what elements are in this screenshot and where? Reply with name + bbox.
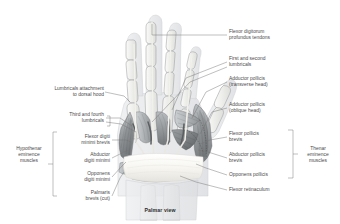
label-opponens-pollicis: Opponens pollicis <box>229 172 304 178</box>
label-opponens-digiti-minimi: Opponens digiti minimi <box>56 171 110 183</box>
label-first-and-second-lumbricals: First and second lumbricals <box>229 56 304 68</box>
flexor-retinaculum-structure <box>123 154 203 182</box>
label-palmaris-brevis-cut: Palmaris brevis (cut) <box>56 190 110 202</box>
label-flexor-retinaculum: Flexor retinaculum <box>229 187 309 193</box>
label-flexor-digiti-minimi-brevis: Flexor digiti minimi brevis <box>56 134 110 146</box>
label-flexor-digitorum-profundus-tendons: Flexor digitorum profundus tendons <box>229 29 304 41</box>
label-adductor-pollicis-oblique-head: Adductor pollicis (oblique head) <box>229 102 304 114</box>
label-flexor-pollicis-brevis: Flexor pollicis brevis <box>229 131 299 143</box>
label-adductor-pollicis-transverse-head: Adductor pollicis (transverse head) <box>229 76 304 88</box>
label-hypothenar-eminence-muscles: Hypothenar eminence muscles <box>9 146 49 164</box>
figure-canvas: Flexor digitorum profundus tendons First… <box>0 0 340 224</box>
label-thenar-eminence-muscles: Thenar eminence muscles <box>299 146 337 164</box>
label-lumbricals-attachment-to-dorsal-hood: Lumbricals attachment to dorsal hood <box>27 86 104 98</box>
figure-caption: Palmar view <box>120 207 200 213</box>
label-abductor-digiti-minimi: Abductor digiti minimi <box>56 152 110 164</box>
label-third-and-fourth-lumbricals: Third and fourth lumbricals <box>35 112 104 124</box>
forearm-skin <box>126 180 198 220</box>
label-abductor-pollicis-brevis: Abductor pollicis brevis <box>229 152 299 164</box>
